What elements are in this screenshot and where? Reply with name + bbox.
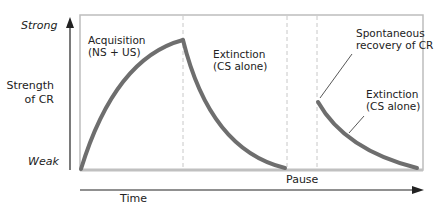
extinction2-label: Extinction (CS alone): [366, 88, 420, 112]
recovery-label: Spontaneous recovery of CR: [356, 27, 433, 51]
y-axis-title: Strength of CR: [6, 79, 54, 107]
recovery-label-line1: Spontaneous: [356, 27, 433, 39]
y-axis-title-line2: of CR: [6, 93, 54, 107]
extinction1-label-line2: (CS alone): [213, 60, 267, 72]
y-axis-arrowhead-icon: [66, 17, 74, 28]
time-axis-title: Time: [120, 193, 147, 205]
extinction1-label: Extinction (CS alone): [213, 48, 267, 72]
extinction2-label-line2: (CS alone): [366, 100, 420, 112]
y-axis-weak-label: Weak: [28, 156, 59, 168]
y-axis-title-line1: Strength: [6, 79, 54, 93]
recovery-label-line2: recovery of CR: [356, 39, 433, 51]
y-axis-strong-label: Strong: [21, 20, 58, 32]
acquisition-label-line1: Acquisition: [88, 34, 146, 46]
acquisition-label-line2: (NS + US): [88, 46, 146, 58]
recovery-leader-line: [320, 54, 352, 98]
extinction2-label-line1: Extinction: [366, 88, 420, 100]
acquisition-curve: [81, 40, 183, 169]
pause-label: Pause: [286, 174, 318, 186]
extinction2-leader-line: [349, 116, 364, 133]
acquisition-label: Acquisition (NS + US): [88, 34, 146, 58]
extinction1-label-line1: Extinction: [213, 48, 267, 60]
time-axis-arrowhead-icon: [412, 186, 424, 194]
